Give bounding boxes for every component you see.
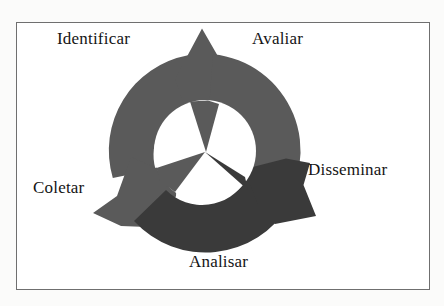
cycle-label-analisar: Analisar [189,253,248,270]
cycle-label-coletar: Coletar [33,179,84,196]
cycle-hub [154,100,256,202]
cycle-label-disseminar: Disseminar [308,161,387,178]
cycle-label-avaliar: Avaliar [252,30,303,47]
figure-page: Identificar Avaliar Disseminar Coletar A… [0,0,444,306]
cycle-label-identificar: Identificar [57,30,130,47]
